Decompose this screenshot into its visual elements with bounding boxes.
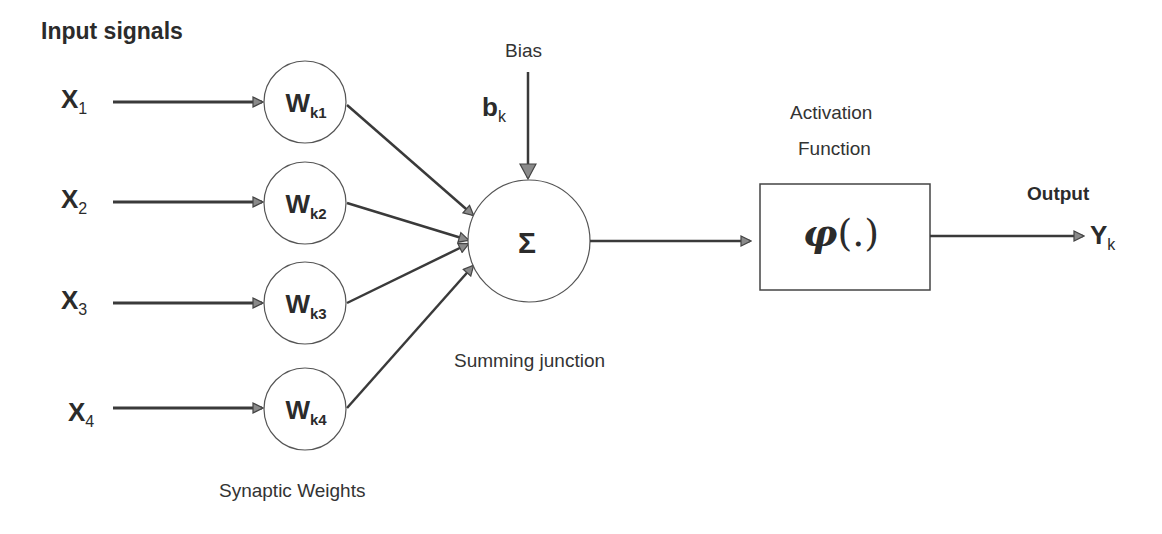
summing-junction-caption: Summing junction	[454, 350, 605, 372]
weight-wk4: Wk4	[285, 395, 326, 428]
output-caption: Output	[1027, 183, 1089, 205]
sigma-symbol: Σ	[518, 226, 536, 260]
input-signals-title: Input signals	[41, 18, 183, 45]
weight-wk2: Wk2	[285, 189, 326, 222]
input-x1: X1	[61, 84, 87, 118]
diagram-canvas	[0, 0, 1162, 534]
bias-caption: Bias	[505, 40, 542, 62]
weight-wk3: Wk3	[285, 289, 326, 322]
weight-wk1: Wk1	[285, 88, 326, 121]
input-x2: X2	[61, 184, 87, 218]
input-x3: X3	[61, 285, 87, 319]
synaptic-weights-caption: Synaptic Weights	[219, 480, 365, 502]
activation-caption-line1: Activation	[790, 102, 872, 124]
activation-phi: φ(.)	[803, 210, 879, 255]
input-arrows	[113, 102, 262, 408]
activation-caption-line2: Function	[798, 138, 871, 160]
bias-bk: bk	[482, 92, 506, 126]
input-x4: X4	[68, 397, 94, 431]
output-yk: Yk	[1090, 220, 1115, 254]
